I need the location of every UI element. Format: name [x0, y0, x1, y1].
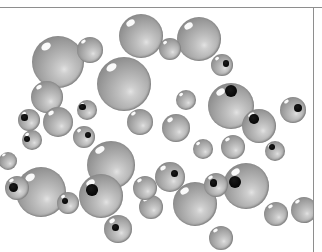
- atom-sphere: [119, 14, 163, 58]
- atom-pit-marker: [85, 132, 92, 139]
- specular-highlight-icon: [196, 141, 201, 145]
- atom-sphere: [79, 174, 123, 218]
- atom-pit-marker: [9, 183, 19, 193]
- specular-highlight-icon: [214, 56, 219, 61]
- specular-highlight-icon: [225, 137, 231, 142]
- atom-pit-marker: [269, 144, 275, 150]
- specular-highlight-icon: [40, 41, 52, 52]
- atom-sphere: [291, 197, 313, 223]
- specular-highlight-icon: [160, 165, 167, 171]
- specular-highlight-icon: [105, 62, 118, 74]
- specular-highlight-icon: [180, 186, 190, 196]
- atom-sphere: [5, 176, 29, 200]
- atom-sphere: [127, 109, 153, 135]
- atom-sphere: [155, 162, 185, 192]
- atom-scene: [0, 8, 313, 252]
- atom-sphere: [221, 135, 245, 159]
- specular-highlight-icon: [213, 228, 219, 233]
- specular-highlight-icon: [166, 116, 173, 122]
- atom-sphere: [77, 100, 97, 120]
- molecular-model-figure: [0, 0, 322, 252]
- atom-sphere: [133, 176, 157, 200]
- atom-sphere: [22, 130, 42, 150]
- specular-highlight-icon: [76, 128, 81, 133]
- atom-pit-marker: [62, 198, 69, 205]
- specular-highlight-icon: [94, 145, 105, 155]
- specular-highlight-icon: [2, 154, 6, 158]
- atom-pit-marker: [86, 184, 97, 195]
- atom-pit-marker: [223, 60, 230, 67]
- atom-sphere: [159, 38, 181, 60]
- specular-highlight-icon: [179, 92, 184, 96]
- atom-pit-marker: [171, 170, 178, 177]
- atom-sphere: [0, 152, 17, 170]
- atom-sphere: [97, 57, 151, 111]
- atom-sphere: [176, 90, 196, 110]
- atom-sphere: [193, 139, 213, 159]
- specular-highlight-icon: [137, 178, 143, 183]
- specular-highlight-icon: [126, 18, 136, 28]
- atom-pit-marker: [225, 85, 237, 97]
- atom-sphere: [77, 37, 103, 63]
- atom-sphere: [223, 163, 269, 209]
- frame-right-rule: [313, 7, 314, 252]
- specular-highlight-icon: [295, 199, 301, 205]
- atom-sphere: [280, 97, 306, 123]
- specular-highlight-icon: [284, 99, 290, 105]
- atom-sphere: [265, 141, 285, 161]
- atom-sphere: [264, 202, 288, 226]
- atom-pit-marker: [294, 104, 302, 112]
- atom-sphere: [162, 114, 190, 142]
- atom-pit-marker: [21, 114, 28, 121]
- atom-sphere: [73, 126, 95, 148]
- atom-pit-marker: [229, 176, 241, 188]
- atom-sphere: [177, 17, 221, 61]
- atom-sphere: [211, 54, 233, 76]
- atom-sphere: [104, 215, 132, 243]
- specular-highlight-icon: [36, 84, 44, 91]
- specular-highlight-icon: [81, 39, 87, 45]
- atom-sphere: [242, 109, 276, 143]
- atom-pit-marker: [249, 114, 259, 124]
- specular-highlight-icon: [48, 110, 55, 116]
- atom-sphere: [57, 192, 79, 214]
- specular-highlight-icon: [184, 21, 194, 31]
- specular-highlight-icon: [268, 204, 274, 209]
- atom-sphere: [18, 109, 40, 131]
- specular-highlight-icon: [162, 40, 167, 45]
- atom-sphere: [209, 226, 233, 250]
- atom-pit-marker: [210, 179, 217, 186]
- specular-highlight-icon: [131, 111, 137, 117]
- atom-pit-marker: [79, 104, 85, 110]
- atom-pit-marker: [24, 136, 30, 142]
- atom-pit-marker: [112, 224, 119, 231]
- specular-highlight-icon: [108, 217, 115, 223]
- atom-sphere: [32, 36, 84, 88]
- atom-sphere: [204, 173, 228, 197]
- atom-sphere: [43, 107, 73, 137]
